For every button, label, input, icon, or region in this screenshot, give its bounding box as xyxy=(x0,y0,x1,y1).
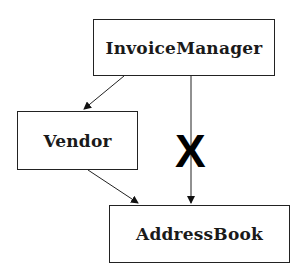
edge-invoicemanager-vendor xyxy=(84,76,124,109)
forbidden-x-icon: X xyxy=(175,128,206,174)
node-invoicemanager: InvoiceManager xyxy=(93,19,275,76)
node-label: InvoiceManager xyxy=(106,38,263,58)
node-label: AddressBook xyxy=(136,224,263,244)
node-vendor: Vendor xyxy=(17,111,138,170)
node-addressbook: AddressBook xyxy=(109,205,290,263)
node-label: Vendor xyxy=(43,131,111,151)
edge-vendor-addressbook xyxy=(88,170,138,203)
